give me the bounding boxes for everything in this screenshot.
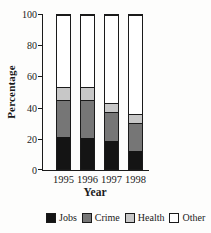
legend-item-health: Health bbox=[125, 212, 165, 223]
y-axis-title: Percentage bbox=[4, 14, 18, 170]
y-axis-tick-mark bbox=[38, 108, 42, 109]
y-axis-tick-label: 20 bbox=[27, 133, 37, 144]
y-axis-tick-label: 40 bbox=[27, 102, 37, 113]
bar-segment-crime bbox=[81, 100, 94, 139]
stacked-bar-1996 bbox=[80, 14, 95, 170]
bar-segment-health bbox=[57, 87, 70, 99]
y-axis-tick-mark bbox=[38, 139, 42, 140]
y-axis-tick-mark bbox=[38, 14, 42, 15]
bar-segment-other bbox=[105, 15, 118, 103]
legend-label: Health bbox=[138, 212, 165, 223]
bar-segment-crime bbox=[57, 100, 70, 137]
legend-swatch-icon bbox=[125, 213, 135, 223]
bar-segment-other bbox=[57, 15, 70, 87]
bar-segment-health bbox=[105, 103, 118, 112]
bar-segment-jobs bbox=[129, 151, 142, 169]
bar-segment-jobs bbox=[81, 138, 94, 169]
bar-segment-jobs bbox=[57, 137, 70, 169]
y-axis-tick-mark bbox=[38, 45, 42, 46]
bar-segment-crime bbox=[129, 123, 142, 151]
stacked-bar-1998 bbox=[128, 14, 143, 170]
legend-swatch-icon bbox=[169, 213, 179, 223]
legend-item-jobs: Jobs bbox=[46, 212, 77, 223]
x-axis-title: Year bbox=[42, 186, 148, 198]
bar-segment-crime bbox=[105, 112, 118, 141]
bar-segment-jobs bbox=[105, 141, 118, 169]
stacked-bar-chart-figure: Percentage 0204060801001995199619971998 … bbox=[0, 0, 211, 233]
legend-swatch-icon bbox=[82, 213, 92, 223]
y-axis-tick-label: 60 bbox=[27, 71, 37, 82]
stacked-bar-1995 bbox=[56, 14, 71, 170]
x-axis-tick-label: 1998 bbox=[121, 174, 151, 185]
legend-label: Other bbox=[182, 212, 205, 223]
legend-item-other: Other bbox=[169, 212, 205, 223]
y-axis-tick-mark bbox=[38, 76, 42, 77]
y-axis-tick-mark bbox=[38, 169, 42, 170]
legend-label: Jobs bbox=[59, 212, 77, 223]
plot-area: 0204060801001995199619971998 bbox=[42, 14, 149, 171]
chart-legend: JobsCrimeHealthOther bbox=[46, 212, 205, 223]
y-axis-tick-label: 0 bbox=[32, 165, 37, 176]
bar-segment-health bbox=[129, 114, 142, 123]
legend-label: Crime bbox=[95, 212, 120, 223]
y-axis-tick-label: 100 bbox=[22, 9, 37, 20]
legend-item-crime: Crime bbox=[82, 212, 120, 223]
legend-swatch-icon bbox=[46, 213, 56, 223]
y-axis-tick-label: 80 bbox=[27, 40, 37, 51]
bar-segment-health bbox=[81, 87, 94, 99]
stacked-bar-1997 bbox=[104, 14, 119, 170]
bar-segment-other bbox=[81, 15, 94, 87]
bar-segment-other bbox=[129, 15, 142, 114]
